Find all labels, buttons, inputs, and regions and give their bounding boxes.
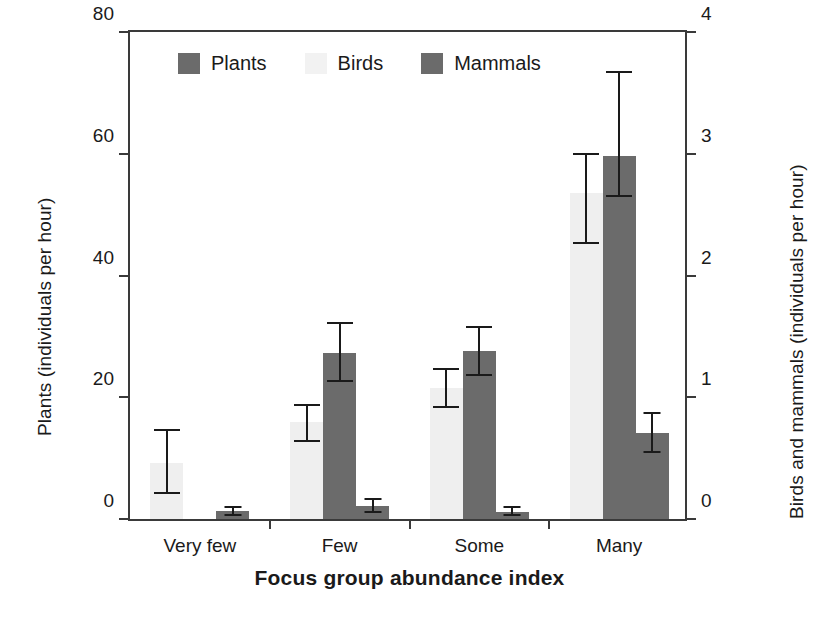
error-bar-line: [306, 405, 308, 442]
y-axis-left-tick-label: 40: [93, 247, 114, 266]
x-axis-tick: [269, 519, 271, 529]
legend-item-birds: Birds: [305, 52, 384, 75]
legend-swatch-plants-icon: [178, 53, 200, 74]
error-bar-cap-upper: [433, 368, 459, 370]
error-bar-cap-upper: [327, 322, 353, 324]
error-bar-cap-upper: [364, 498, 381, 500]
x-axis-title: Focus group abundance index: [0, 566, 819, 590]
error-bar-cap-lower: [606, 195, 632, 197]
legend-item-plants: Plants: [178, 52, 267, 75]
y-axis-right-tick-label: 2: [701, 247, 712, 266]
error-bar-cap-upper: [644, 412, 661, 414]
y-axis-right-tick-label: 0: [701, 491, 712, 510]
error-bar-line: [478, 327, 480, 375]
error-bar-cap-upper: [504, 506, 521, 508]
y-axis-right-tick-label: 4: [701, 4, 712, 23]
y-axis-left-tick-label: 20: [93, 369, 114, 388]
y-axis-left-tick-label: 60: [93, 125, 114, 144]
error-bar-line: [618, 72, 620, 196]
legend-label: Birds: [338, 52, 384, 75]
chart-legend: PlantsBirdsMammals: [178, 52, 541, 75]
x-axis-tick-label: Some: [455, 535, 505, 557]
y-axis-left-tick: [119, 153, 128, 155]
error-bar-cap-lower: [433, 406, 459, 408]
error-bar-cap-lower: [364, 511, 381, 513]
y-axis-left-tick: [119, 275, 128, 277]
error-bar-cap-lower: [644, 451, 661, 453]
error-bar-cap-upper: [224, 506, 241, 508]
error-bar-cap-lower: [154, 492, 180, 494]
y-axis-right-tick: [687, 275, 696, 277]
error-bar-line: [585, 154, 587, 243]
bar-plants-some: [463, 351, 496, 519]
error-bar-cap-upper: [466, 326, 492, 328]
y-axis-right-tick: [687, 518, 696, 520]
legend-label: Mammals: [454, 52, 541, 75]
error-bar-cap-lower: [504, 514, 521, 516]
error-bar-cap-upper: [154, 429, 180, 431]
y-axis-right-tick: [687, 396, 696, 398]
x-axis-tick: [548, 519, 550, 529]
y-axis-left-tick: [119, 518, 128, 520]
legend-swatch-birds-icon: [305, 53, 327, 74]
error-bar-line: [166, 430, 168, 493]
y-axis-right-title: Birds and mammals (individuals per hour): [786, 164, 808, 519]
error-bar-cap-upper: [573, 153, 599, 155]
y-axis-left-tick-label: 80: [93, 4, 114, 23]
error-bar-line: [339, 323, 341, 381]
y-axis-right-tick-label: 3: [701, 125, 712, 144]
legend-swatch-mammals-icon: [421, 53, 443, 74]
legend-item-mammals: Mammals: [421, 52, 541, 75]
y-axis-left-tick: [119, 31, 128, 33]
x-axis-tick-label: Few: [322, 535, 358, 557]
error-bar-cap-upper: [294, 404, 320, 406]
error-bar-cap-lower: [466, 374, 492, 376]
legend-label: Plants: [211, 52, 267, 75]
y-axis-right-tick-label: 1: [701, 369, 712, 388]
error-bar-line: [651, 413, 653, 452]
y-axis-right-tick: [687, 31, 696, 33]
bar-plants-many: [603, 156, 636, 519]
y-axis-left-tick-label: 0: [103, 491, 114, 510]
error-bar-cap-upper: [606, 71, 632, 73]
y-axis-right-tick: [687, 153, 696, 155]
error-bar-line: [445, 369, 447, 407]
error-bar-cap-lower: [573, 242, 599, 244]
chart-figure: Plants (individuals per hour) Birds and …: [0, 0, 819, 624]
x-axis-tick: [409, 519, 411, 529]
error-bar-cap-lower: [224, 514, 241, 516]
plot-area: 02040608001234Very fewFewSomeMany: [128, 30, 687, 521]
x-axis-tick-label: Very few: [163, 535, 236, 557]
y-axis-left-title: Plants (individuals per hour): [34, 198, 56, 436]
x-axis-tick-label: Many: [596, 535, 642, 557]
error-bar-cap-lower: [294, 440, 320, 442]
error-bar-cap-lower: [327, 380, 353, 382]
y-axis-left-tick: [119, 396, 128, 398]
